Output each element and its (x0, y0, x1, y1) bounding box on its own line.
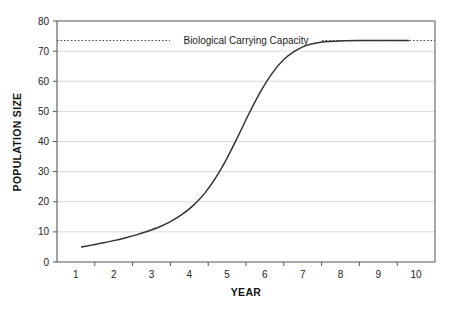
x-axis-title: YEAR (231, 286, 261, 298)
y-axis-tick-label: 0 (43, 257, 49, 268)
chart-canvas: 01020304050607080 12345678910 Biological… (0, 0, 453, 310)
y-axis-tick-label: 20 (38, 196, 50, 207)
y-axis-tick-labels-group: 01020304050607080 (38, 16, 50, 268)
carrying-capacity-label: Biological Carrying Capacity (183, 35, 308, 46)
y-axis-tick-label: 70 (38, 46, 50, 57)
chart-background (0, 0, 453, 310)
x-axis-tick-label: 3 (149, 269, 155, 280)
x-axis-tick-label: 1 (73, 269, 79, 280)
y-axis-tick-label: 40 (38, 136, 50, 147)
x-axis-tick-label: 9 (376, 269, 382, 280)
x-axis-tick-label: 5 (224, 269, 230, 280)
x-axis-tick-label: 6 (262, 269, 268, 280)
y-axis-tick-label: 60 (38, 76, 50, 87)
x-axis-tick-label: 4 (187, 269, 193, 280)
logistic-growth-chart: 01020304050607080 12345678910 Biological… (0, 0, 453, 310)
y-axis-tick-label: 10 (38, 226, 50, 237)
y-axis-tick-label: 80 (38, 16, 50, 27)
y-axis-title: POPULATION SIZE (11, 93, 23, 192)
y-axis-tick-label: 50 (38, 106, 50, 117)
x-axis-tick-label: 10 (411, 269, 423, 280)
x-axis-tick-label: 2 (111, 269, 117, 280)
x-axis-tick-label: 8 (338, 269, 344, 280)
x-axis-tick-label: 7 (300, 269, 306, 280)
y-axis-tick-label: 30 (38, 166, 50, 177)
